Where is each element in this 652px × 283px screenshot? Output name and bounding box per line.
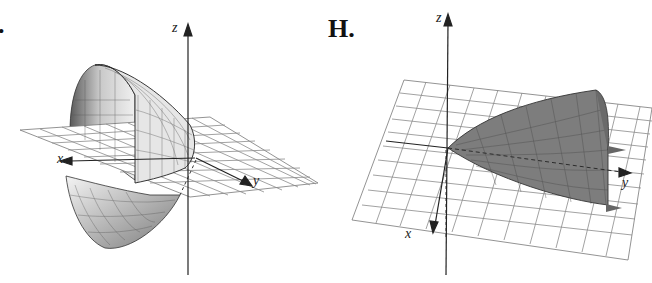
panel-right: H. (326, 0, 652, 283)
x-axis-label-right: x (404, 226, 412, 241)
y-axis-label-right: y (620, 175, 629, 190)
paraboloid-diagram-left: z x y (0, 0, 326, 283)
z-axis-label-left: z (171, 20, 178, 35)
paraboloid-diagram-right: z x y (326, 0, 652, 283)
z-axis-label-right: z (435, 10, 442, 25)
x-axis-label-left: x (56, 151, 64, 166)
y-axis-label-left: y (251, 173, 260, 188)
panel-left: . (0, 0, 326, 283)
